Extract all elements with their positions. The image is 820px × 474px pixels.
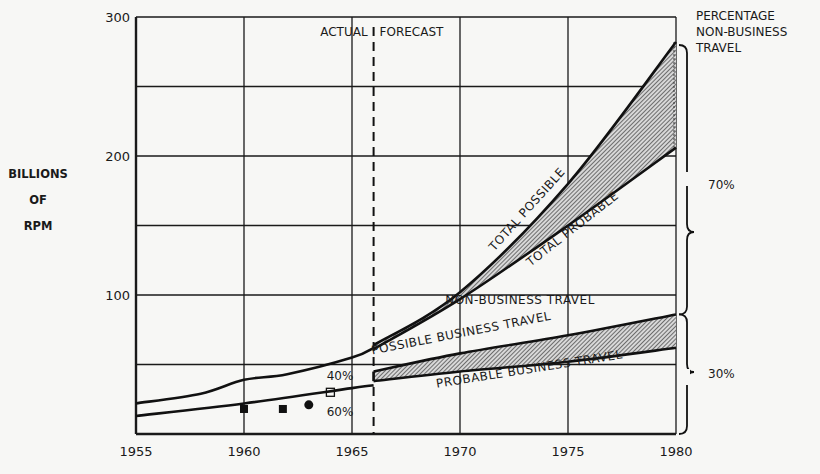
- x-tick-label: 1955: [119, 444, 152, 459]
- chart: ACTUALFORECAST 1955196019651970197519801…: [0, 0, 820, 474]
- y-tick-label: 300: [105, 10, 130, 25]
- axis-labels: 195519601965197019751980100200300BILLION…: [8, 10, 692, 459]
- brace-lower-pct: 30%: [708, 367, 735, 381]
- point-square: [279, 405, 287, 413]
- x-tick-label: 1975: [551, 444, 584, 459]
- brace-upper-pct: 70%: [708, 178, 735, 192]
- y-tick-label: 100: [105, 288, 130, 303]
- x-tick-label: 1970: [443, 444, 476, 459]
- right-header-line: TRAVEL: [695, 41, 741, 55]
- x-tick-label: 1980: [659, 444, 692, 459]
- right-header-line: PERCENTAGE: [696, 9, 775, 23]
- point-square: [240, 405, 248, 413]
- forecast-label: FORECAST: [380, 25, 444, 39]
- pct-40-label: 40%: [327, 369, 354, 383]
- pct-60-label: 60%: [327, 405, 354, 419]
- y-axis-title: BILLIONS: [8, 167, 68, 181]
- label-non-business-travel: NON-BUSINESS TRAVEL: [445, 293, 595, 307]
- y-tick-label: 200: [105, 149, 130, 164]
- actual-label: ACTUAL: [320, 25, 368, 39]
- x-tick-label: 1965: [335, 444, 368, 459]
- x-tick-label: 1960: [227, 444, 260, 459]
- y-axis-title: OF: [29, 193, 47, 207]
- y-axis-title: RPM: [24, 219, 53, 233]
- right-header-line: NON-BUSINESS: [696, 25, 787, 39]
- point-circle: [304, 400, 313, 409]
